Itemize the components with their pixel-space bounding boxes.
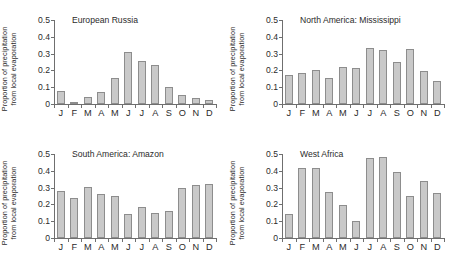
bar-slot — [203, 154, 217, 238]
bar-slot — [81, 20, 95, 104]
bar-slot — [189, 20, 203, 104]
bar — [420, 181, 428, 238]
bar-slot — [377, 20, 391, 104]
x-tick-mark — [95, 238, 96, 242]
bar — [339, 67, 347, 104]
x-tick-mark — [323, 104, 324, 108]
x-tick-mark — [404, 104, 405, 108]
x-tick-label: A — [149, 108, 163, 122]
bar — [84, 97, 92, 104]
bar-slot — [135, 154, 149, 238]
bar-slot — [336, 154, 350, 238]
chart-panel: Proportion of precipitation from local e… — [0, 134, 228, 268]
x-tick-mark — [350, 104, 351, 108]
bar — [433, 193, 441, 238]
panel-title: South America: Amazon — [72, 149, 164, 159]
chart-panel: Proportion of precipitation from local e… — [0, 0, 228, 134]
bar-slot — [162, 154, 176, 238]
x-tick-mark — [68, 238, 69, 242]
x-tick-mark — [216, 238, 217, 242]
x-tick-mark — [282, 238, 283, 242]
x-tick-label: A — [323, 108, 337, 122]
bar-slot — [336, 20, 350, 104]
bar-slot — [81, 154, 95, 238]
bar — [205, 184, 213, 238]
bar — [138, 207, 146, 238]
x-tick-label: J — [350, 242, 364, 256]
bar — [366, 158, 374, 238]
bar — [285, 214, 293, 238]
x-tick-mark — [149, 104, 150, 108]
y-tick-label: 0.3 — [266, 49, 278, 59]
x-tick-label: D — [431, 108, 445, 122]
y-axis-ticks: 00.10.20.30.40.5 — [22, 14, 50, 110]
x-tick-label: A — [377, 242, 391, 256]
x-tick-mark — [203, 238, 204, 242]
bar — [312, 70, 320, 104]
x-tick-label: S — [390, 108, 404, 122]
x-tick-mark — [189, 238, 190, 242]
x-tick-mark — [390, 238, 391, 242]
bar-slot — [363, 20, 377, 104]
bar-series — [282, 20, 444, 104]
bar-slot — [68, 154, 82, 238]
bar — [433, 81, 441, 104]
x-tick-mark — [377, 104, 378, 108]
x-tick-label: M — [81, 108, 95, 122]
x-tick-mark — [363, 238, 364, 242]
bar-slot — [95, 154, 109, 238]
bar — [97, 194, 105, 238]
x-tick-label: D — [203, 108, 217, 122]
x-tick-label: S — [162, 242, 176, 256]
bar-slot — [149, 154, 163, 238]
x-tick-label: N — [417, 108, 431, 122]
x-tick-label: J — [363, 242, 377, 256]
bar-slot — [417, 154, 431, 238]
x-tick-mark — [404, 238, 405, 242]
x-tick-label: J — [122, 108, 136, 122]
bar — [70, 198, 78, 238]
x-tick-label: M — [108, 108, 122, 122]
x-tick-label: J — [135, 242, 149, 256]
bar — [325, 78, 333, 104]
bar — [339, 205, 347, 238]
panel-title: West Africa — [300, 149, 343, 159]
bar — [178, 188, 186, 238]
bar-slot — [135, 20, 149, 104]
x-tick-mark — [95, 104, 96, 108]
bar — [298, 73, 306, 104]
x-tick-label: J — [135, 108, 149, 122]
chart-panel: Proportion of precipitation from local e… — [228, 134, 456, 268]
y-tick-label: 0.4 — [266, 166, 278, 176]
bar-slot — [309, 154, 323, 238]
x-tick-mark — [444, 104, 445, 108]
y-tick-label: 0.1 — [38, 82, 50, 92]
bar-series — [54, 154, 216, 238]
bar-slot — [149, 20, 163, 104]
bar — [312, 168, 320, 238]
x-tick-mark — [81, 104, 82, 108]
bar — [57, 91, 65, 104]
x-tick-mark — [108, 238, 109, 242]
bar-slot — [296, 20, 310, 104]
x-tick-mark — [135, 238, 136, 242]
bar-slot — [404, 154, 418, 238]
y-tick-label: 0 — [45, 99, 50, 109]
bar-slot — [176, 20, 190, 104]
y-tick-label: 0.4 — [38, 32, 50, 42]
y-tick-label: 0.2 — [38, 65, 50, 75]
x-tick-mark — [377, 238, 378, 242]
x-tick-label: F — [68, 108, 82, 122]
x-tick-mark — [417, 238, 418, 242]
bar-slot — [95, 20, 109, 104]
x-tick-mark — [176, 238, 177, 242]
x-tick-label: J — [363, 108, 377, 122]
x-tick-label: N — [189, 108, 203, 122]
bar-series — [282, 154, 444, 238]
x-tick-label: J — [54, 108, 68, 122]
bar-slot — [176, 154, 190, 238]
bar-slot — [390, 154, 404, 238]
x-tick-mark — [390, 104, 391, 108]
y-tick-label: 0.2 — [266, 65, 278, 75]
x-tick-label: F — [68, 242, 82, 256]
